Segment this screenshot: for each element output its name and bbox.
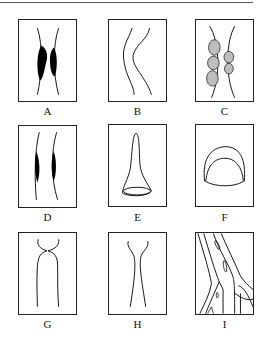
panel-h — [108, 232, 167, 315]
stenosis-mass-drawing — [19, 20, 76, 101]
panel-label-g: G — [18, 319, 77, 330]
panel-c — [195, 19, 254, 102]
panel-b — [108, 19, 167, 102]
top-rule — [0, 2, 253, 3]
nodular-vessel-drawing — [196, 20, 253, 101]
flask-pouch-drawing — [109, 125, 166, 206]
panel-f — [195, 124, 254, 207]
panel-label-f: F — [195, 212, 254, 223]
panel-i — [195, 232, 254, 315]
panel-label-d: D — [18, 212, 77, 223]
dome-contour-drawing — [196, 125, 253, 206]
fusiform-thickening-drawing — [19, 126, 76, 207]
panel-label-b: B — [108, 106, 167, 117]
panel-a — [18, 19, 77, 102]
panel-d — [18, 125, 77, 208]
branching-vessels-drawing — [196, 233, 253, 314]
panel-g — [18, 232, 77, 315]
abrupt-constriction-drawing — [19, 233, 76, 314]
panel-label-e: E — [108, 212, 167, 223]
panel-e — [108, 124, 167, 207]
panel-label-i: I — [195, 319, 254, 330]
hourglass-narrowing-drawing — [109, 233, 166, 314]
panel-label-h: H — [108, 319, 167, 330]
tortuous-vessel-drawing — [109, 20, 166, 101]
panel-label-a: A — [18, 106, 77, 117]
panel-label-c: C — [195, 106, 254, 117]
